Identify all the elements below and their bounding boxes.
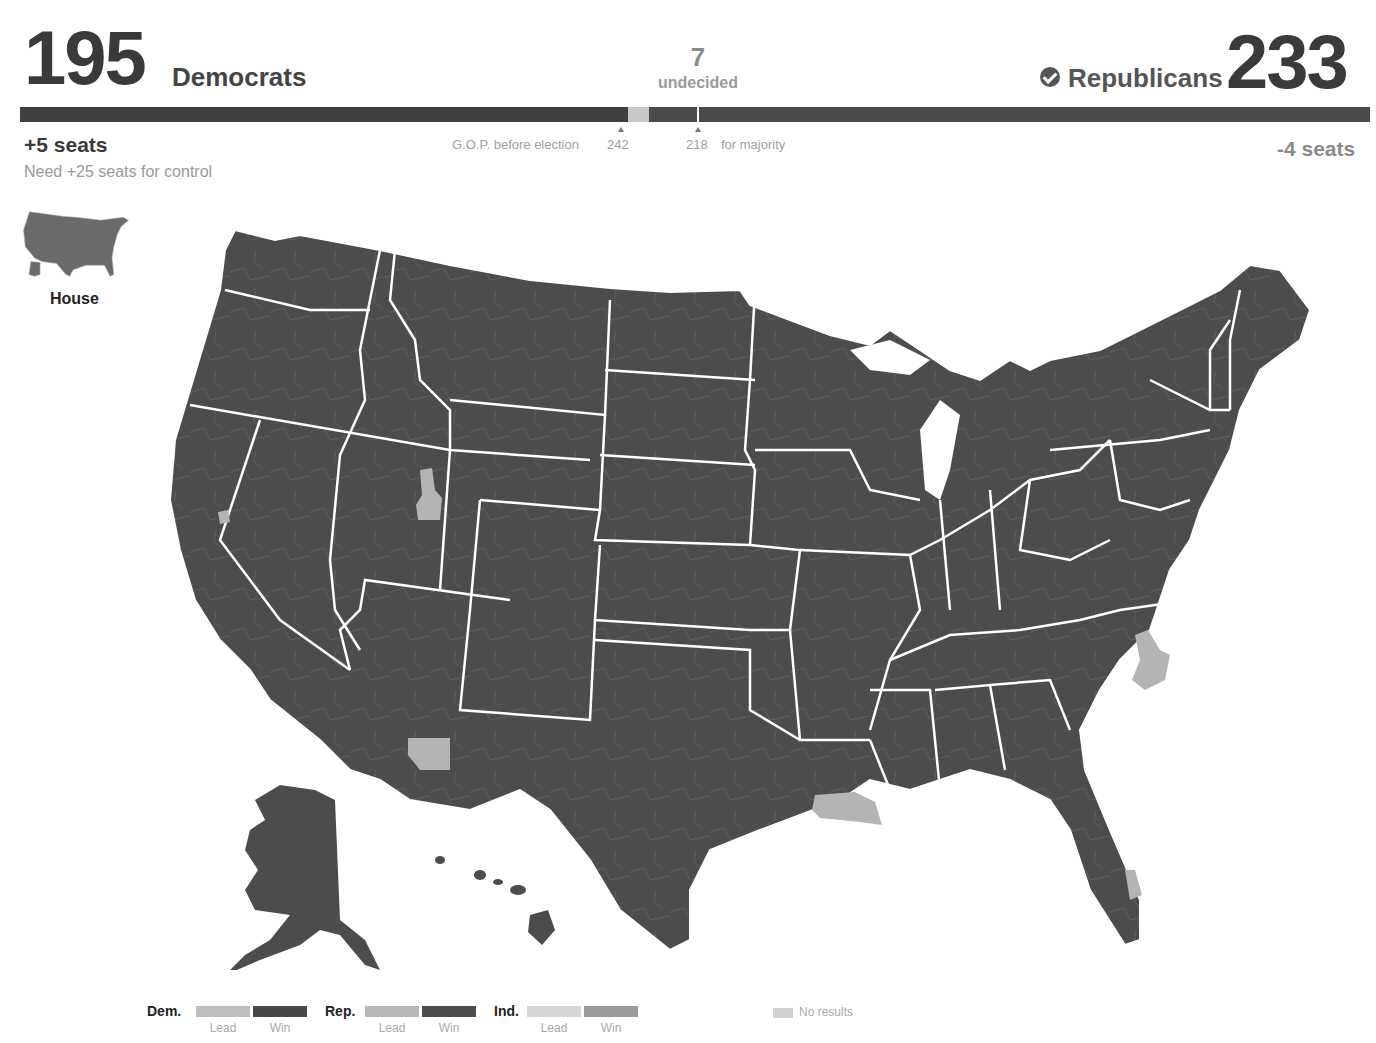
legend-ind-label: Ind. <box>494 1003 519 1019</box>
legend-ind-lead-swatch <box>527 1006 581 1017</box>
legend-dem-win-label: Win <box>253 1021 307 1035</box>
undecided-label: undecided <box>646 74 750 92</box>
contiguous-us <box>170 230 1310 950</box>
seat-balance-bar <box>20 107 1370 122</box>
us-map-thumbnail-icon[interactable] <box>20 210 132 280</box>
legend-rep-lead-swatch <box>365 1006 419 1017</box>
legend-rep-lead-label: Lead <box>365 1021 419 1035</box>
undecided-seat-count: 7 <box>660 44 736 70</box>
legend-rep-win-swatch <box>422 1006 476 1017</box>
region-louisiana <box>812 792 882 825</box>
house-results-map <box>150 210 1330 970</box>
legend-dem-lead-swatch <box>196 1006 250 1017</box>
majority-value: 218 <box>686 137 708 152</box>
majority-line <box>697 107 699 122</box>
undecided-seats-segment <box>628 107 649 122</box>
chamber-label: House <box>50 290 99 308</box>
dem-control-note: Need +25 seats for control <box>24 163 212 181</box>
legend-no-results-label: No results <box>799 1005 853 1019</box>
dem-seats-segment <box>20 107 628 122</box>
rep-seat-change: -4 seats <box>1277 137 1355 161</box>
dem-seat-change: +5 seats <box>24 133 108 157</box>
region-n-california <box>218 510 230 524</box>
legend-ind-lead-label: Lead <box>527 1021 581 1035</box>
democrats-label: Democrats <box>172 62 306 93</box>
legend-rep-win-label: Win <box>422 1021 476 1035</box>
legend-no-results-swatch <box>773 1008 793 1018</box>
gop-before-marker-icon <box>618 127 624 132</box>
legend-rep-label: Rep. <box>325 1003 355 1019</box>
gop-before-label: G.O.P. before election <box>452 137 579 152</box>
majority-label: for majority <box>721 137 785 152</box>
alaska <box>225 785 380 970</box>
democrats-seat-count: 195 <box>24 20 145 96</box>
legend-dem-label: Dem. <box>147 1003 181 1019</box>
republicans-label: Republicans <box>1068 63 1223 94</box>
legend-dem-win-swatch <box>253 1006 307 1017</box>
legend-ind-win-swatch <box>584 1006 638 1017</box>
region-north-carolina <box>1132 630 1170 690</box>
hawaii <box>435 856 555 945</box>
check-circle-icon <box>1040 67 1060 87</box>
majority-marker-icon <box>695 127 701 132</box>
legend-dem-lead-label: Lead <box>196 1021 250 1035</box>
legend-ind-win-label: Win <box>584 1021 638 1035</box>
rep-seats-segment <box>649 107 1370 122</box>
republicans-seat-count: 233 <box>1226 24 1347 100</box>
gop-before-value: 242 <box>607 137 629 152</box>
